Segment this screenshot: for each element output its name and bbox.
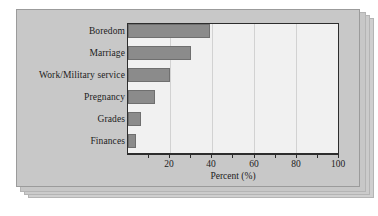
category-label-grades: Grades bbox=[23, 114, 125, 124]
x-tick-100 bbox=[338, 154, 339, 158]
category-label-finances: Finances bbox=[23, 136, 125, 146]
x-axis-title: Percent (%) bbox=[127, 171, 339, 181]
category-axis-labels: Boredom Marriage Work/Military service P… bbox=[23, 23, 125, 154]
x-tick-50 bbox=[232, 154, 233, 158]
x-tick-90 bbox=[317, 154, 318, 158]
x-tick-10 bbox=[148, 154, 149, 158]
x-tick-40 bbox=[211, 154, 212, 158]
x-tick-80 bbox=[296, 154, 297, 158]
x-axis-line bbox=[127, 154, 339, 155]
x-tick-60 bbox=[254, 154, 255, 158]
x-tick-label-40: 40 bbox=[196, 159, 226, 169]
category-label-boredom: Boredom bbox=[23, 26, 125, 36]
category-label-work: Work/Military service bbox=[23, 70, 125, 80]
gridline-60 bbox=[254, 24, 255, 153]
plot-area bbox=[127, 23, 339, 154]
bar-marriage[interactable] bbox=[128, 46, 191, 60]
x-tick-20 bbox=[169, 154, 170, 158]
x-tick-label-80: 80 bbox=[281, 159, 311, 169]
bar-finances[interactable] bbox=[128, 134, 136, 148]
gridline-20 bbox=[170, 24, 171, 153]
gridline-40 bbox=[212, 24, 213, 153]
gridline-80 bbox=[296, 24, 297, 153]
bar-chart: Boredom Marriage Work/Military service P… bbox=[17, 10, 361, 188]
category-label-marriage: Marriage bbox=[23, 48, 125, 58]
bar-grades[interactable] bbox=[128, 112, 141, 126]
bar-pregnancy[interactable] bbox=[128, 90, 155, 104]
bar-work[interactable] bbox=[128, 68, 170, 82]
x-tick-70 bbox=[275, 154, 276, 158]
x-tick-label-60: 60 bbox=[239, 159, 269, 169]
figure-container: Boredom Marriage Work/Military service P… bbox=[0, 0, 378, 216]
x-tick-30 bbox=[190, 154, 191, 158]
category-label-pregnancy: Pregnancy bbox=[23, 92, 125, 102]
x-tick-label-20: 20 bbox=[154, 159, 184, 169]
bar-boredom[interactable] bbox=[128, 24, 210, 38]
chart-panel: Boredom Marriage Work/Military service P… bbox=[16, 9, 360, 187]
x-tick-label-100: 100 bbox=[323, 159, 353, 169]
